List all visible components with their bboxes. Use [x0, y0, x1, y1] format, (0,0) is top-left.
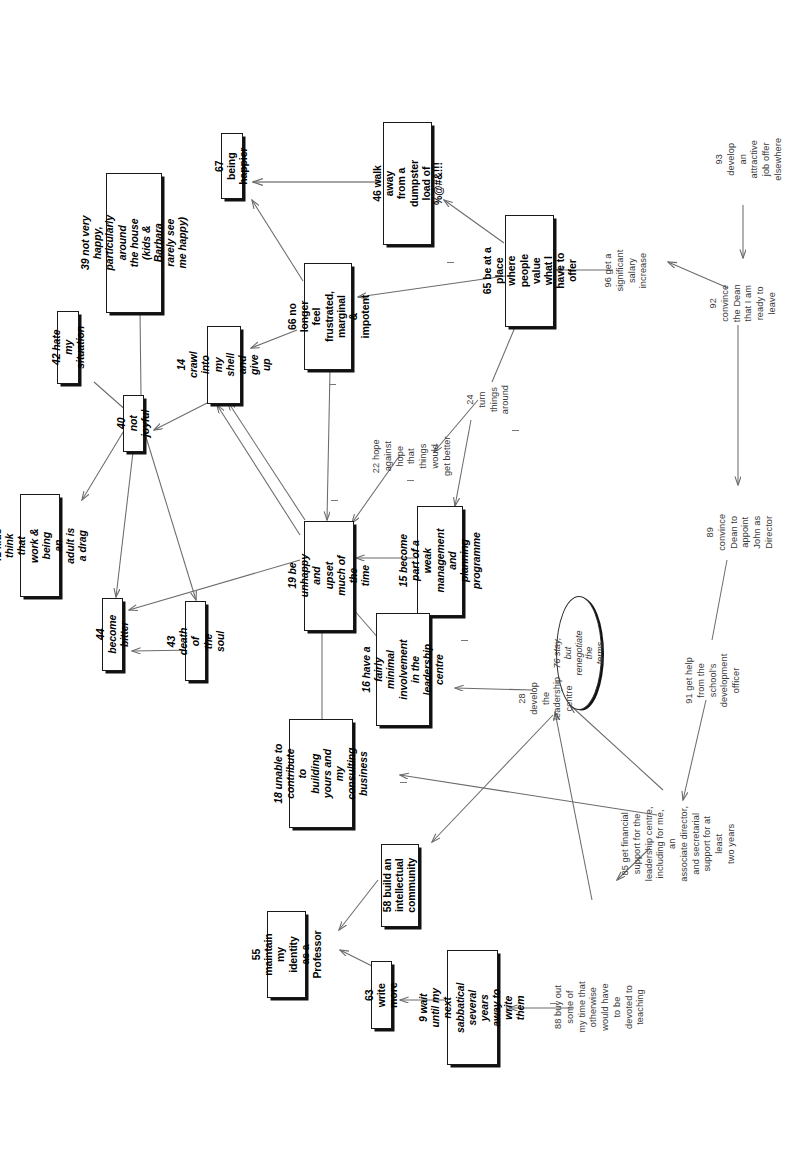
node-9[interactable]: 9 wait until my next sabbatical several … — [447, 950, 498, 1065]
node-85-label: 85 get financial support for the leaders… — [620, 805, 738, 883]
node-85[interactable]: 85 get financial support for the leaders… — [640, 790, 718, 898]
link-sign-tick — [329, 384, 336, 385]
node-96[interactable]: 96 get a significant salary increase — [613, 228, 641, 314]
node-16[interactable]: 16 have a fairly minimal involvement in … — [376, 613, 430, 726]
node-19[interactable]: 19 be unhappy and upset much of the time — [304, 521, 354, 631]
node-40-label: 40 not joyful — [115, 410, 152, 437]
link-sign-tick — [461, 640, 468, 641]
node-15-label: 15 become part of a weak management and … — [397, 529, 482, 593]
node-28[interactable]: 28 develop the leadership centre — [533, 655, 561, 741]
node-22-label: 22 hope against hope that things would g… — [371, 436, 453, 476]
node-22[interactable]: 22 hope against hope that things would g… — [392, 413, 432, 499]
node-67-label: 67 being happier — [214, 147, 251, 184]
node-91[interactable]: 91 get help from the school's developmen… — [694, 633, 734, 727]
node-44-label: 44 become bitter — [94, 615, 131, 654]
node-92-label: 92 convince the Dean that I am ready to … — [708, 283, 779, 323]
node-66-label: 66 no longer feel frustrated, marginal &… — [285, 291, 370, 342]
link-sign-tick — [512, 430, 519, 431]
node-41-label: 41 kids think that work & being an adult… — [0, 527, 89, 565]
node-46-label: 46 walk away from a dumpster load of %@#… — [371, 160, 444, 207]
node-42[interactable]: 42 hate my situation — [57, 311, 79, 384]
node-55-label: 55 maintain my identity as a Professor — [250, 930, 323, 978]
node-18-label: 18 unable to contribute to building your… — [272, 743, 369, 805]
node-65[interactable]: 65 be at a place where people value what… — [505, 215, 554, 327]
node-88[interactable]: 88 buy out some of my time that otherwis… — [574, 960, 626, 1054]
node-15[interactable]: 15 become part of a weak management and … — [417, 506, 463, 616]
link-sign-tick — [400, 782, 407, 783]
node-58-label: 58 build an intellectual community — [382, 858, 419, 913]
node-67[interactable]: 67 being happier — [221, 133, 243, 199]
node-46[interactable]: 46 walk away from a dumpster load of %@#… — [383, 122, 432, 245]
node-89[interactable]: 89 convince Dean to appoint John as Dire… — [720, 487, 760, 577]
node-55[interactable]: 55 maintain my identity as a Professor — [267, 911, 306, 998]
node-63-label: 63 write more — [363, 982, 400, 1007]
node-14[interactable]: 14 crawl into my shell and give up — [207, 326, 241, 404]
node-91-label: 91 get help from the school's developmen… — [685, 653, 744, 707]
node-39-label: 39 not very happy, particularly around t… — [79, 215, 189, 270]
node-43[interactable]: 43 death of the soul — [185, 601, 206, 681]
node-93-label: 93 develop an attractive job offer elsew… — [714, 138, 785, 181]
node-92[interactable]: 92 convince the Dean that I am ready to … — [723, 258, 763, 348]
node-65-label: 65 be at a place where people value what… — [481, 248, 578, 295]
node-24-label: 24 turn things around — [465, 385, 512, 414]
node-39[interactable]: 39 not very happy, particularly around t… — [106, 173, 162, 313]
link-sign-tick — [331, 500, 338, 501]
node-41[interactable]: 41 kids think that work & being an adult… — [20, 494, 60, 597]
node-40[interactable]: 40 not joyful — [123, 395, 144, 452]
link-sign-tick — [447, 262, 454, 263]
node-58[interactable]: 58 build an intellectual community — [381, 844, 419, 927]
node-44[interactable]: 44 become bitter — [102, 598, 123, 671]
node-14-label: 14 crawl into my shell and give up — [175, 349, 272, 381]
node-19-label: 19 be unhappy and upset much of the time — [286, 552, 371, 600]
node-24[interactable]: 24 turn things around — [475, 365, 503, 435]
node-89-label: 89 convince Dean to appoint John as Dire… — [705, 512, 776, 552]
node-16-label: 16 have a fairly minimal involvement in … — [360, 639, 445, 699]
node-42-label: 42 hate my situation — [50, 326, 87, 369]
node-18[interactable]: 18 unable to contribute to building your… — [289, 719, 353, 828]
node-93[interactable]: 93 develop an attractive job offer elsew… — [729, 113, 769, 205]
node-43-label: 43 death of the soul — [165, 627, 226, 655]
node-63[interactable]: 63 write more — [371, 961, 392, 1029]
node-9-label: 9 wait until my next sabbatical several … — [418, 982, 528, 1032]
node-96-label: 96 get a significant salary increase — [603, 250, 650, 292]
cognitive-map-canvas: 39 not very happy, particularly around t… — [0, 0, 798, 1152]
node-66[interactable]: 66 no longer feel frustrated, marginal &… — [304, 263, 352, 370]
node-28-label: 28 develop the leadership centre — [518, 676, 577, 719]
node-88-label: 88 buy out some of my time that otherwis… — [553, 981, 647, 1033]
